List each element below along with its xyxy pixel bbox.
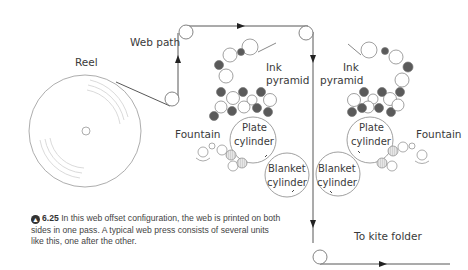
web-path-label: Web path <box>130 36 180 48</box>
ink-pyramid-left-label-1: Ink <box>266 61 283 73</box>
figure-caption: ▲6.25 In this web offset configuration, … <box>31 213 281 248</box>
blanket-left-label-1: Blanket <box>268 163 306 174</box>
plate-right-label-2: cylinder <box>351 136 392 147</box>
plate-right-label-1: Plate <box>359 122 384 133</box>
arrow-up-icon <box>175 55 181 63</box>
reel <box>29 75 141 187</box>
arrow-down-icon <box>310 55 316 63</box>
blanket-right-label-1: Blanket <box>318 163 356 174</box>
fountain-right-label: Fountain <box>416 128 462 140</box>
figure-number: 6.25 <box>42 213 59 223</box>
caption-text: In this web offset configuration, the we… <box>31 213 280 246</box>
ink-pyramid-right-label-2: pyramid <box>320 74 363 86</box>
arrow-right-icon <box>379 261 387 267</box>
ink-pyramid-left-label-2: pyramid <box>266 74 309 86</box>
diagram-canvas: Reel Web path Ink pyramid Ink pyramid Fo… <box>0 0 468 270</box>
blanket-cylinder-right <box>316 152 360 196</box>
arrow-up-circle-icon: ▲ <box>31 215 40 224</box>
plate-left-label-1: Plate <box>242 122 267 133</box>
to-kite-folder-label: To kite folder <box>353 230 422 242</box>
blanket-left-label-2: cylinder <box>267 177 308 188</box>
ink-pyramid-right-label-1: Ink <box>343 61 360 73</box>
arrow-down-icon <box>310 220 316 228</box>
plate-left-label-2: cylinder <box>234 136 275 147</box>
blanket-right-label-2: cylinder <box>317 177 358 188</box>
fountain-left-label: Fountain <box>175 128 221 140</box>
arrow-right-icon <box>237 23 245 29</box>
reel-label: Reel <box>75 56 98 68</box>
blanket-cylinder-left <box>265 153 309 197</box>
